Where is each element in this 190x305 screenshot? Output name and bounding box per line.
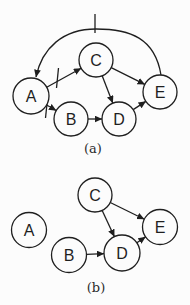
edge-D-E — [137, 237, 146, 243]
node-a-E: E — [143, 75, 177, 109]
node-label: D — [113, 111, 125, 128]
edge-C-D — [102, 76, 113, 103]
node-label: C — [90, 52, 102, 69]
graph-figure: ABCDE(a)ABCDE(b) — [0, 0, 190, 305]
node-a-C: C — [79, 43, 113, 77]
node-b-B: B — [52, 238, 87, 273]
node-b-C: C — [78, 178, 112, 212]
edge-B-D — [86, 254, 104, 255]
diagram-b: ABCDE(b) — [12, 178, 178, 295]
edge-C-E — [110, 203, 144, 220]
edge-A-C — [47, 68, 81, 87]
node-label: E — [155, 219, 166, 236]
node-b-D: D — [104, 235, 140, 271]
node-label: C — [89, 187, 101, 204]
node-label: B — [64, 247, 75, 264]
diagram-layers: ABCDE(a)ABCDE(b) — [12, 14, 178, 295]
node-label: E — [155, 84, 166, 101]
node-label: B — [66, 111, 77, 128]
graph-figure-svg: ABCDE(a)ABCDE(b) — [0, 0, 190, 305]
node-label: A — [26, 88, 37, 105]
constraint-tick-A-C — [57, 68, 59, 88]
edge-A-B — [47, 105, 57, 111]
node-a-B: B — [54, 102, 88, 136]
edge-C-D — [102, 210, 114, 236]
edge-C-E — [111, 68, 145, 85]
node-a-D: D — [102, 102, 136, 136]
edge-D-E — [133, 101, 146, 109]
node-label: A — [24, 222, 35, 239]
caption-b: (b) — [87, 280, 105, 295]
caption-a: (a) — [84, 141, 102, 156]
node-b-E: E — [143, 210, 178, 245]
node-b-A: A — [12, 213, 47, 248]
node-a-A: A — [13, 78, 49, 114]
diagram-a: ABCDE(a) — [13, 14, 177, 156]
node-label: D — [116, 245, 128, 262]
